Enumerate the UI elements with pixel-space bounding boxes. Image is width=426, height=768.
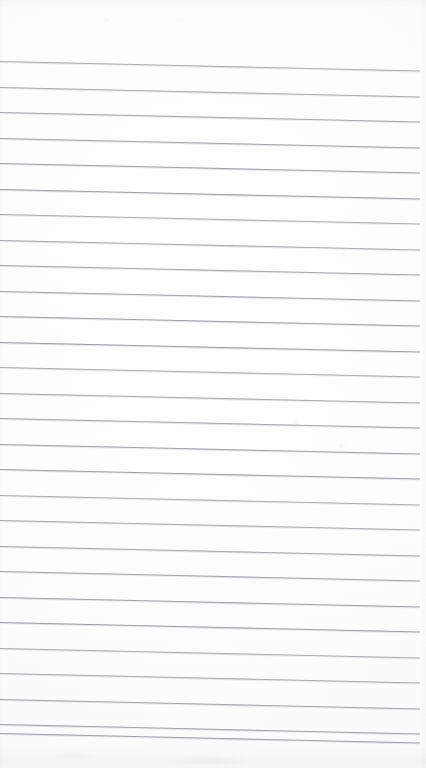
rule-line bbox=[0, 342, 420, 353]
rule-line bbox=[0, 87, 420, 98]
rule-line bbox=[0, 367, 420, 378]
rule-line bbox=[0, 138, 420, 149]
rule-line bbox=[0, 469, 420, 480]
rule-line bbox=[0, 265, 420, 276]
rule-line bbox=[0, 393, 420, 404]
rule-line bbox=[0, 673, 420, 684]
rule-line bbox=[0, 240, 420, 251]
rule-line bbox=[0, 520, 420, 531]
rule-line bbox=[0, 495, 420, 506]
rule-line bbox=[0, 418, 420, 429]
rule-line bbox=[0, 622, 420, 633]
rule-line bbox=[0, 648, 420, 659]
rule-line bbox=[0, 546, 420, 557]
rule-line bbox=[0, 444, 420, 455]
rule-line bbox=[0, 291, 420, 302]
rule-line bbox=[0, 61, 420, 72]
rule-line bbox=[0, 214, 420, 225]
rule-line bbox=[0, 112, 420, 123]
rule-line bbox=[0, 163, 420, 174]
rule-line bbox=[0, 699, 420, 710]
rule-line bbox=[0, 724, 420, 735]
scanned-page bbox=[0, 0, 426, 768]
rule-line bbox=[0, 733, 420, 744]
rule-line bbox=[0, 189, 420, 200]
rule-line bbox=[0, 597, 420, 608]
ruled-lines-group bbox=[0, 0, 426, 768]
rule-line bbox=[0, 316, 420, 327]
rule-line bbox=[0, 571, 420, 582]
